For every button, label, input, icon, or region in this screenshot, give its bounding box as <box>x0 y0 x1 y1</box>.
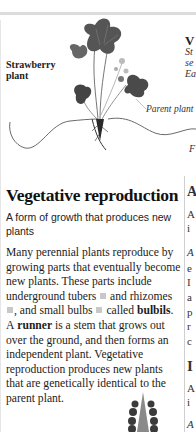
adjacent-col-peek: c <box>187 335 192 347</box>
adjacent-col-peek: i <box>187 222 190 234</box>
plant-label: Strawberry plant <box>6 59 55 81</box>
plant-label-line2: plant <box>6 70 55 81</box>
adjacent-col-peek: A <box>187 246 194 258</box>
body-text: , and small bulbs <box>14 304 93 317</box>
adjacent-col-peek: A <box>187 184 196 200</box>
adjacent-col-peek: r <box>187 320 191 332</box>
parent-plant-label: Parent plant <box>146 104 193 114</box>
body-text: and rhizomes <box>110 290 172 303</box>
adjacent-col-peek: A <box>187 418 194 430</box>
adjacent-label-peek: F <box>189 143 195 154</box>
adjacent-col-peek: A <box>187 208 195 220</box>
plant-label-line1: Strawberry <box>6 59 55 70</box>
adjacent-col-peek: e <box>187 262 192 274</box>
adjacent-caption-peek: St se Ea <box>185 46 196 79</box>
body-text: called <box>106 304 134 317</box>
adjacent-col-peek: i <box>187 396 190 408</box>
section-subtitle: A form of growth that produces new plant… <box>6 210 178 238</box>
column-divider <box>184 176 185 432</box>
peek-line: St <box>185 46 196 57</box>
section-body: Many perennial plants reproduce by growi… <box>6 246 182 407</box>
adjacent-col-peek: a <box>187 291 192 303</box>
adjacent-col-peek: A <box>187 382 195 394</box>
adjacent-col-peek: p <box>187 306 193 318</box>
term-runner: runner <box>17 319 52 332</box>
peek-line: Ea <box>185 68 196 79</box>
fern-frond-illustration <box>123 392 163 432</box>
strawberry-plant-illustration <box>0 15 196 150</box>
peek-line: se <box>185 57 196 68</box>
adjacent-col-peek: I <box>187 276 191 288</box>
section-title: Vegetative reproduction <box>6 185 178 206</box>
square-marker-icon <box>96 307 102 313</box>
square-marker-icon <box>7 307 13 313</box>
square-marker-icon <box>100 293 106 299</box>
adjacent-col-peek: I <box>187 358 193 375</box>
term-bulbils: bulbils <box>137 304 171 317</box>
